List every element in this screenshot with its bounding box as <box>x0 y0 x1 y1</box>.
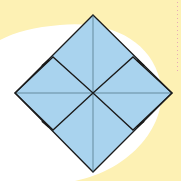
origami-diagram <box>0 0 181 181</box>
